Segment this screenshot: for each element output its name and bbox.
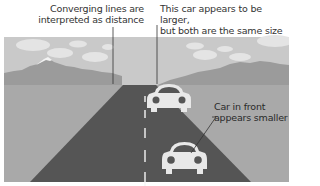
- annotation-line: Car in front: [214, 101, 289, 112]
- annotation-line: but both are the same size: [160, 25, 289, 36]
- annotation-line: appears smaller: [214, 112, 289, 123]
- annotation-larger-car: This car appears to be larger, but both …: [160, 3, 289, 36]
- annotation-line: interpreted as distance: [24, 14, 144, 25]
- annotation-converging-lines: Converging lines are interpreted as dist…: [24, 3, 144, 25]
- annotation-front-car: Car in front appears smaller: [214, 101, 289, 123]
- annotation-line: Converging lines are: [24, 3, 144, 14]
- annotation-line: This car appears to be larger,: [160, 3, 289, 25]
